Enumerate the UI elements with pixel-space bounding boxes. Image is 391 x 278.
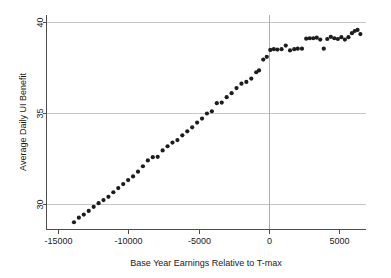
data-point xyxy=(165,144,169,148)
data-point xyxy=(229,91,233,95)
data-point xyxy=(180,133,184,137)
data-point xyxy=(358,32,362,36)
data-point xyxy=(170,141,174,145)
y-tick-label: 30 xyxy=(35,199,45,209)
x-tick-label: -5000 xyxy=(188,236,211,246)
x-axis-title: Base Year Earnings Relative to T-max xyxy=(130,258,282,268)
x-tick-label: 5000 xyxy=(329,236,349,246)
data-point xyxy=(185,129,189,133)
data-point xyxy=(151,155,155,159)
data-point xyxy=(239,82,243,86)
y-tick-label: 35 xyxy=(35,108,45,118)
chart-figure: -15000-10000-500005000 303540 Base Year … xyxy=(0,0,391,278)
data-point xyxy=(116,186,120,190)
data-point xyxy=(292,47,296,51)
data-point xyxy=(101,198,105,202)
data-point xyxy=(343,37,347,41)
data-point xyxy=(346,35,350,39)
data-point xyxy=(311,36,315,40)
data-point xyxy=(284,43,288,47)
data-point xyxy=(268,48,272,52)
data-point xyxy=(195,121,199,125)
data-point xyxy=(220,101,224,105)
x-tick-label: -10000 xyxy=(114,236,142,246)
data-point xyxy=(279,47,283,51)
x-tick-label: 0 xyxy=(267,236,272,246)
data-point xyxy=(92,205,96,209)
data-point xyxy=(225,95,229,99)
data-point xyxy=(234,86,238,90)
data-point xyxy=(146,158,150,162)
data-point xyxy=(136,170,140,174)
data-point xyxy=(244,80,248,84)
data-point xyxy=(300,47,304,51)
data-point xyxy=(249,77,253,81)
data-point xyxy=(261,57,265,61)
data-point xyxy=(190,125,194,129)
data-point xyxy=(325,37,329,41)
data-point xyxy=(318,37,322,41)
data-point xyxy=(215,101,219,105)
data-point xyxy=(131,174,135,178)
data-point xyxy=(257,68,261,72)
data-point xyxy=(332,36,336,40)
data-point xyxy=(275,47,279,51)
data-point xyxy=(141,164,145,168)
data-point xyxy=(106,195,110,199)
scatter-plot-svg: -15000-10000-500005000 303540 Base Year … xyxy=(0,0,391,278)
data-point xyxy=(77,216,81,220)
data-point xyxy=(111,190,115,194)
data-point xyxy=(126,178,130,182)
data-point xyxy=(265,55,269,59)
data-point xyxy=(210,109,214,113)
data-point xyxy=(339,35,343,39)
data-point xyxy=(175,138,179,142)
data-point xyxy=(72,220,76,224)
y-tick-label: 40 xyxy=(35,17,45,27)
data-point xyxy=(296,47,300,51)
data-point xyxy=(161,148,165,152)
data-point xyxy=(200,117,204,121)
data-point xyxy=(288,48,292,52)
data-point xyxy=(322,47,326,51)
data-point xyxy=(121,182,125,186)
x-tick-label: -15000 xyxy=(44,236,72,246)
y-axis-title: Average Daily UI Benefit xyxy=(18,73,28,171)
data-point xyxy=(87,209,91,213)
data-point xyxy=(82,212,86,216)
data-point xyxy=(96,201,100,205)
data-point xyxy=(355,28,359,32)
data-point xyxy=(156,155,160,159)
data-point xyxy=(205,111,209,115)
